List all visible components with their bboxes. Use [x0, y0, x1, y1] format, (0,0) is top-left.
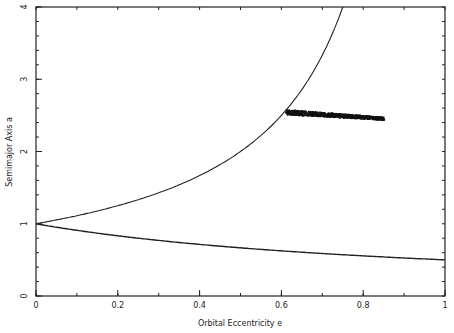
- orbit-cluster: [286, 109, 386, 121]
- y-tick-label: 1: [20, 221, 29, 226]
- y-tick-label: 4: [20, 4, 29, 9]
- y-tick-label: 0: [20, 293, 29, 298]
- x-tick-label: 0.4: [193, 301, 206, 310]
- y-tick-label: 3: [20, 77, 29, 82]
- y-axis-ticks: 01234: [20, 4, 445, 298]
- y-tick-label: 2: [20, 149, 29, 154]
- x-axis-ticks: 00.20.40.60.81: [33, 7, 447, 310]
- y-axis-title: Semimajor Axis a: [5, 117, 14, 187]
- chart: 00.20.40.60.81 01234 Orbital Eccentricit…: [0, 0, 454, 333]
- x-tick-label: 1: [442, 301, 447, 310]
- lower-boundary-curve: [36, 224, 445, 260]
- x-axis-title: Orbital Eccentricity e: [198, 319, 282, 328]
- x-tick-label: 0: [33, 301, 38, 310]
- boundary-curves: [36, 0, 445, 260]
- x-tick-label: 0.6: [275, 301, 288, 310]
- x-tick-label: 0.8: [357, 301, 370, 310]
- x-tick-label: 0.2: [111, 301, 124, 310]
